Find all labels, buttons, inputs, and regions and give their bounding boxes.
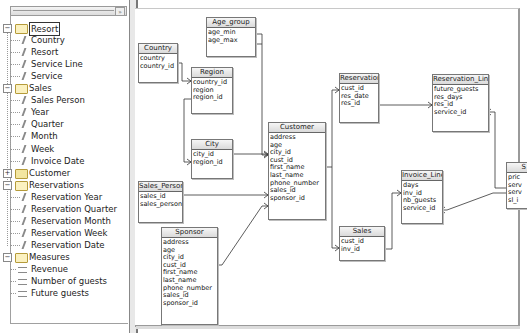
- table-field[interactable]: country_id: [193, 79, 232, 87]
- table-field[interactable]: city_id: [270, 149, 325, 157]
- table-country[interactable]: Country countrycountry_id: [138, 43, 178, 83]
- tree-item-label: Sales Person: [31, 94, 85, 106]
- table-field[interactable]: serv: [508, 189, 527, 197]
- table-field[interactable]: phone_number: [163, 285, 217, 293]
- field-list: sales_idsales_person: [139, 192, 182, 208]
- measure-icon: [18, 267, 27, 273]
- table-field[interactable]: city_id: [193, 151, 232, 159]
- tree-connector: [10, 112, 20, 113]
- table-sponsor[interactable]: Sponsor addressagecity_idcust_idfirst_na…: [161, 227, 218, 325]
- table-field[interactable]: sales_id: [270, 187, 325, 195]
- table-service[interactable]: S pricservservsl_i: [506, 162, 527, 209]
- field-list: future_guestsres_daysres_idservice_id: [433, 85, 488, 116]
- tree-item-label: Year: [31, 106, 49, 118]
- table-field[interactable]: address: [163, 239, 217, 247]
- table-field[interactable]: last_name: [270, 172, 325, 180]
- table-field[interactable]: region_id: [193, 94, 232, 102]
- table-field[interactable]: cust_id: [270, 157, 325, 165]
- table-field[interactable]: inv_id: [341, 246, 384, 254]
- universe-tree-pane: » −ResortCountryResortService LineServic…: [0, 0, 130, 333]
- table-reservations[interactable]: Reservations cust_idres_dateres_id: [339, 73, 379, 123]
- table-sales-person[interactable]: Sales_Person sales_idsales_person: [138, 181, 183, 223]
- table-field[interactable]: days: [403, 182, 442, 190]
- table-title: City: [192, 140, 232, 150]
- tree-connector: [10, 149, 20, 150]
- table-field[interactable]: serv: [508, 182, 527, 190]
- table-field[interactable]: pric: [508, 174, 527, 182]
- table-field[interactable]: age_max: [208, 37, 255, 45]
- table-field[interactable]: region_id: [193, 159, 232, 167]
- table-field[interactable]: address: [270, 134, 325, 142]
- table-field[interactable]: service_id: [434, 109, 488, 117]
- table-field[interactable]: cust_id: [163, 262, 217, 270]
- table-field[interactable]: country_id: [140, 63, 177, 71]
- tree-root-connector: [7, 28, 8, 246]
- tree-connector: [10, 136, 20, 137]
- table-region[interactable]: Region country_idregionregion_id: [191, 67, 233, 114]
- table-field[interactable]: country: [140, 55, 177, 63]
- table-field[interactable]: res_id: [341, 100, 378, 108]
- table-title: S: [507, 163, 527, 173]
- table-field[interactable]: res_days: [434, 94, 488, 102]
- expand-icon[interactable]: +: [3, 169, 12, 178]
- table-field[interactable]: future_guests: [434, 86, 488, 94]
- tree-item-label: Reservation Date: [31, 239, 104, 251]
- table-title: Sales_Person: [139, 182, 182, 192]
- table-age-group[interactable]: Age_group age_minage_max: [206, 17, 256, 57]
- table-field[interactable]: sponsor_id: [270, 195, 325, 203]
- tree-connector: [10, 161, 20, 162]
- field-list: country_idregionregion_id: [192, 78, 232, 102]
- folder-icon: [15, 84, 28, 94]
- table-field[interactable]: region: [193, 87, 232, 95]
- tree-connector: [10, 233, 20, 234]
- table-reservation-line[interactable]: Reservation_Line future_guestsres_daysre…: [432, 74, 489, 132]
- tree-connector: [10, 92, 11, 166]
- table-title: Reservations: [340, 74, 378, 84]
- table-field[interactable]: service_id: [403, 205, 442, 213]
- field-list: age_minage_max: [207, 28, 255, 44]
- tree-connector: [10, 100, 20, 101]
- tree-connector: [10, 245, 20, 246]
- table-field[interactable]: phone_number: [270, 180, 325, 188]
- table-field[interactable]: inv_id: [403, 190, 442, 198]
- field-list: cust_idres_dateres_id: [340, 84, 378, 108]
- table-field[interactable]: first_name: [270, 164, 325, 172]
- tree-connector: [10, 76, 20, 77]
- tree-connector: [10, 197, 20, 198]
- table-field[interactable]: first_name: [163, 269, 217, 277]
- tree-group-label: Reservations: [29, 179, 84, 191]
- table-field[interactable]: sponsor_id: [163, 300, 217, 308]
- table-field[interactable]: sales_person: [140, 201, 182, 209]
- table-customer[interactable]: Customer addressagecity_idcust_idfirst_n…: [268, 122, 326, 220]
- table-field[interactable]: res_date: [341, 93, 378, 101]
- header-divider: [13, 10, 114, 11]
- table-title: Invoice_Line: [402, 171, 442, 181]
- table-field[interactable]: city_id: [163, 254, 217, 262]
- tree-connector: [10, 40, 20, 41]
- table-field[interactable]: sales_id: [163, 292, 217, 300]
- table-field[interactable]: age: [270, 142, 325, 150]
- tree-item-label: Month: [31, 130, 58, 142]
- table-field[interactable]: last_name: [163, 277, 217, 285]
- table-field[interactable]: res_id: [434, 101, 488, 109]
- tree-item-label: Quarter: [31, 118, 64, 130]
- tree-connector: [10, 189, 11, 251]
- table-invoice-line[interactable]: Invoice_Line daysinv_idnb_guestsservice_…: [401, 170, 443, 224]
- tree-group-label: Measures: [29, 251, 70, 263]
- field-list: daysinv_idnb_guestsservice_id: [402, 181, 442, 212]
- tree-connector: [10, 64, 20, 65]
- table-field[interactable]: nb_guests: [403, 197, 442, 205]
- measure-icon: [18, 279, 27, 285]
- table-title: Customer: [269, 123, 325, 133]
- table-field[interactable]: cust_id: [341, 238, 384, 246]
- table-field[interactable]: cust_id: [341, 85, 378, 93]
- folder-icon: [15, 24, 28, 34]
- table-field[interactable]: age_min: [208, 29, 255, 37]
- table-field[interactable]: sales_id: [140, 193, 182, 201]
- table-title: Reservation_Line: [433, 75, 488, 85]
- table-sales[interactable]: Sales cust_idinv_id: [339, 226, 385, 261]
- tree-item-label: Resort: [31, 46, 58, 58]
- table-field[interactable]: age: [163, 247, 217, 255]
- table-city[interactable]: City city_idregion_id: [191, 139, 233, 179]
- table-field[interactable]: sl_i: [508, 197, 527, 205]
